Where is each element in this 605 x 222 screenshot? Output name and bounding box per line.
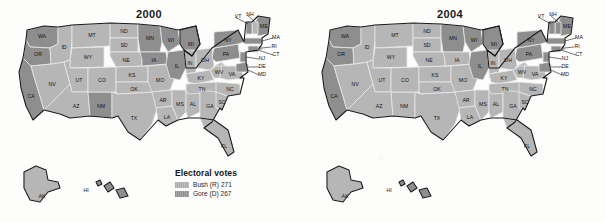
state-label-wa: WA (38, 33, 47, 39)
state-label-me: ME (563, 23, 571, 29)
state-ma (547, 38, 565, 44)
state-label-mt: MT (88, 32, 96, 38)
map-panel-2004: 2004 WAORCANVIDMTWYUTAZNMCONDSDNEKSOKTXM… (303, 0, 605, 222)
state-label-mo: MO (459, 77, 467, 83)
state-label-ak: AK (39, 193, 46, 199)
state-hi-islet-0 (104, 182, 114, 192)
state-label-il: IL (478, 63, 482, 69)
state-label-in: IN (187, 60, 192, 66)
leader-line-nj (246, 57, 259, 59)
state-label-ky: KY (501, 75, 508, 81)
leader-line-ri (565, 47, 574, 48)
state-label-tn: TN (199, 86, 206, 92)
state-label-pa: PA (526, 51, 533, 57)
state-label-ne: NE (425, 57, 433, 63)
state-label-ny: NY (527, 37, 535, 43)
state-label-id: ID (364, 44, 369, 50)
legend-swatch-democrat-icon (175, 191, 189, 197)
state-label-or: OR (34, 51, 42, 57)
state-label-nj: NJ (562, 55, 569, 61)
state-label-ms: MS (479, 101, 487, 107)
state-label-ar: AR (159, 97, 166, 103)
state-label-wa: WA (341, 33, 350, 39)
state-label-al: AL (493, 101, 499, 107)
state-label-ut: UT (76, 77, 84, 83)
state-label-de: DE (258, 63, 266, 69)
state-label-az: AZ (376, 103, 383, 109)
state-label-va: VA (229, 71, 236, 77)
state-label-nh: NH (549, 11, 557, 17)
state-hi-islet-0 (407, 182, 417, 192)
legend-label-republican: Bush (R) 271 (193, 181, 232, 188)
state-label-ga: GA (206, 103, 214, 109)
state-label-ct: CT (273, 51, 281, 57)
state-label-wv: WV (215, 69, 224, 75)
electoral-maps-figure: 2000 WAORCANVIDMTWYUTAZNMCONDSDNEKSOKTXM… (0, 0, 605, 222)
state-label-hi: HI (386, 187, 391, 193)
state-label-ks: KS (432, 72, 439, 78)
state-label-nc: NC (226, 86, 234, 92)
state-label-nd: ND (423, 28, 431, 34)
state-label-md: MD (561, 71, 569, 77)
leader-line-nj (549, 57, 562, 59)
state-label-nm: NM (400, 103, 408, 109)
state-label-fl: FL (524, 143, 530, 149)
legend-2000: Electoral votes Bush (R) 271 Gore (D) 26… (175, 168, 237, 197)
legend-row-republican: Bush (R) 271 (175, 181, 237, 188)
state-label-ny: NY (224, 37, 232, 43)
state-label-tn: TN (502, 86, 509, 92)
us-map-2000: WAORCANVIDMTWYUTAZNMCONDSDNEKSOKTXMNIAMO… (0, 0, 302, 222)
state-label-mi: MI (188, 41, 194, 47)
state-label-ms: MS (176, 101, 184, 107)
state-label-nc: NC (529, 86, 537, 92)
state-label-ri: RI (271, 43, 276, 49)
leader-line-ri (262, 47, 271, 48)
state-label-nv: NV (48, 81, 56, 87)
state-label-mt: MT (391, 32, 399, 38)
state-label-tx: TX (434, 115, 441, 121)
state-label-nm: NM (97, 103, 105, 109)
state-label-wv: WV (518, 69, 527, 75)
state-label-co: CO (401, 77, 409, 83)
state-label-ct: CT (576, 51, 584, 57)
legend-row-democrat: Gore (D) 267 (175, 190, 237, 197)
state-label-la: LA (467, 114, 474, 120)
state-vt (246, 22, 252, 34)
state-label-nv: NV (351, 81, 359, 87)
state-label-mn: MN (146, 35, 154, 41)
state-label-ia: IA (152, 57, 157, 63)
state-label-or: OR (337, 51, 345, 57)
us-map-2004: WAORCANVIDMTWYUTAZNMCONDSDNEKSOKTXMNIAMO… (303, 0, 605, 222)
state-label-co: CO (98, 77, 106, 83)
state-label-ri: RI (574, 43, 579, 49)
state-label-sd: SD (423, 42, 430, 48)
state-label-pa: PA (223, 51, 230, 57)
state-ma (244, 38, 262, 44)
state-label-ia: IA (455, 57, 460, 63)
state-label-vt: VT (235, 13, 242, 19)
state-label-nh: NH (246, 11, 254, 17)
state-nj (543, 52, 549, 62)
legend-title: Electoral votes (175, 168, 237, 178)
state-label-ma: MA (575, 34, 583, 40)
state-label-nj: NJ (259, 55, 266, 61)
state-label-in: IN (490, 60, 495, 66)
state-label-ks: KS (129, 72, 136, 78)
state-label-mn: MN (449, 35, 457, 41)
state-label-ok: OK (130, 86, 138, 92)
state-label-ok: OK (433, 86, 441, 92)
state-label-hi: HI (83, 187, 88, 193)
state-nh (252, 22, 258, 34)
legend-swatch-republican-icon (175, 182, 189, 188)
state-label-ak: AK (342, 193, 349, 199)
state-nj (240, 52, 246, 62)
state-label-oh: OH (504, 57, 512, 63)
state-label-wy: WY (84, 54, 93, 60)
legend-label-democrat: Gore (D) 267 (193, 190, 232, 197)
state-label-ma: MA (272, 34, 280, 40)
state-label-me: ME (260, 23, 268, 29)
state-label-sd: SD (120, 42, 127, 48)
state-label-ga: GA (509, 103, 517, 109)
state-label-wi: WI (471, 37, 477, 43)
state-label-id: ID (61, 44, 66, 50)
